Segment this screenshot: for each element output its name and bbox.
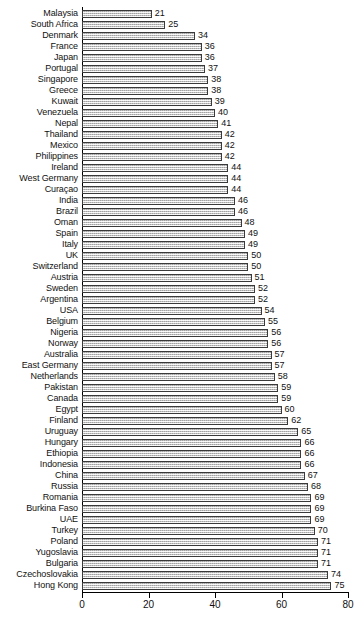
bar-value-label: 42 (225, 129, 235, 140)
bar-row: Hong Kong75 (0, 581, 360, 592)
bar (82, 175, 228, 183)
bar-value-label: 42 (225, 151, 235, 162)
bar-value-label: 71 (321, 558, 331, 569)
category-label: Curaçao (0, 184, 78, 195)
x-tick-label: 0 (67, 599, 97, 610)
category-label: Malaysia (0, 8, 78, 19)
category-label: Poland (0, 536, 78, 547)
category-label: Pakistan (0, 382, 78, 393)
bar-value-label: 70 (318, 525, 328, 536)
bar (82, 230, 245, 238)
category-label: Egypt (0, 404, 78, 415)
bar-value-label: 50 (251, 261, 261, 272)
bar-value-label: 65 (301, 426, 311, 437)
bar-value-label: 58 (278, 371, 288, 382)
category-label: Argentina (0, 294, 78, 305)
bar (82, 439, 301, 447)
bar-value-label: 62 (291, 415, 301, 426)
x-tick-label: 20 (134, 599, 164, 610)
bar (82, 516, 311, 524)
bar (82, 274, 252, 282)
bar-value-label: 37 (208, 63, 218, 74)
bar (82, 373, 275, 381)
category-label: Italy (0, 239, 78, 250)
bar-value-label: 57 (275, 349, 285, 360)
bar-value-label: 56 (271, 338, 281, 349)
bar-value-label: 74 (331, 569, 341, 580)
category-label: Mexico (0, 140, 78, 151)
category-label: Thailand (0, 129, 78, 140)
bar (82, 318, 265, 326)
category-label: Canada (0, 393, 78, 404)
bar (82, 362, 272, 370)
bar (82, 164, 228, 172)
bar-value-label: 36 (205, 41, 215, 52)
category-label: South Africa (0, 19, 78, 30)
bar (82, 296, 255, 304)
bar (82, 582, 331, 590)
bar (82, 395, 278, 403)
category-label: Brazil (0, 206, 78, 217)
category-label: Russia (0, 481, 78, 492)
bar-value-label: 51 (255, 272, 265, 283)
category-label: Austria (0, 272, 78, 283)
bar (82, 538, 318, 546)
bar-value-label: 59 (281, 382, 291, 393)
bar-value-label: 59 (281, 393, 291, 404)
category-label: East Germany (0, 360, 78, 371)
bar (82, 505, 311, 513)
bar-value-label: 57 (275, 360, 285, 371)
category-label: Spain (0, 228, 78, 239)
bar (82, 208, 235, 216)
category-label: Denmark (0, 30, 78, 41)
x-tick (215, 593, 216, 598)
bar-value-label: 49 (248, 228, 258, 239)
bar-value-label: 25 (168, 19, 178, 30)
bar-value-label: 69 (314, 514, 324, 525)
bar (82, 461, 301, 469)
category-label: USA (0, 305, 78, 316)
category-label: Indonesia (0, 459, 78, 470)
category-label: Ethiopia (0, 448, 78, 459)
category-label: Czechoslovakia (0, 569, 78, 580)
bar (82, 219, 242, 227)
bar-value-label: 34 (198, 30, 208, 41)
bar (82, 483, 308, 491)
bar-value-label: 42 (225, 140, 235, 151)
bar (82, 450, 301, 458)
bar (82, 560, 318, 568)
category-label: UAE (0, 514, 78, 525)
x-tick-label: 60 (267, 599, 297, 610)
category-label: Venezuela (0, 107, 78, 118)
bar (82, 307, 262, 315)
category-label: Yugoslavia (0, 547, 78, 558)
bar-value-label: 75 (334, 580, 344, 591)
category-label: Oman (0, 217, 78, 228)
bar-value-label: 67 (308, 470, 318, 481)
category-label: Japan (0, 52, 78, 63)
x-tick (348, 593, 349, 598)
category-label: Switzerland (0, 261, 78, 272)
bar (82, 21, 165, 29)
bar-value-label: 66 (304, 448, 314, 459)
category-label: Bulgaria (0, 558, 78, 569)
bar-value-label: 69 (314, 492, 324, 503)
bar-value-label: 66 (304, 459, 314, 470)
category-label: Nepal (0, 118, 78, 129)
category-label: Uruguay (0, 426, 78, 437)
category-label: Hong Kong (0, 580, 78, 591)
category-label: Ireland (0, 162, 78, 173)
bar-value-label: 48 (245, 217, 255, 228)
bar (82, 32, 195, 40)
category-label: Australia (0, 349, 78, 360)
bar (82, 120, 218, 128)
bar-value-label: 40 (218, 107, 228, 118)
bar-value-label: 46 (238, 195, 248, 206)
category-label: Philippines (0, 151, 78, 162)
bar-value-label: 38 (211, 74, 221, 85)
bar-value-label: 71 (321, 536, 331, 547)
bar (82, 494, 311, 502)
category-label: Norway (0, 338, 78, 349)
bar (82, 252, 248, 260)
category-label: Finland (0, 415, 78, 426)
